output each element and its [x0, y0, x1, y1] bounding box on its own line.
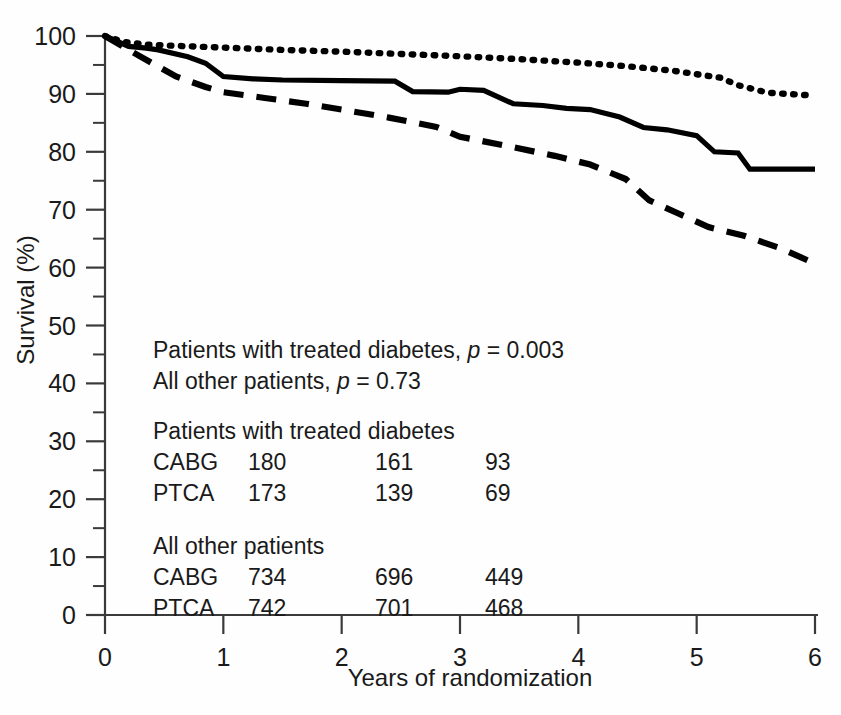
y-tick-label: 10 — [48, 543, 76, 571]
y-tick-label: 70 — [48, 196, 76, 224]
x-tick-label: 1 — [216, 643, 230, 671]
risk-table-row-label: PTCA — [153, 595, 215, 621]
risk-table-count: 69 — [485, 480, 511, 506]
y-tick-label: 50 — [48, 312, 76, 340]
x-axis: 0123456 — [98, 615, 822, 671]
x-tick-label: 5 — [690, 643, 704, 671]
x-axis-title: Years of randomization — [348, 664, 593, 691]
survival-curves — [105, 36, 815, 264]
x-tick-label: 0 — [98, 643, 112, 671]
y-axis: 0102030405060708090100 — [34, 22, 105, 629]
risk-table-count: 173 — [248, 480, 286, 506]
y-tick-label: 0 — [62, 601, 76, 629]
y-tick-label: 100 — [34, 22, 76, 50]
risk-table-count: 180 — [248, 449, 286, 475]
risk-table-count: 742 — [248, 595, 286, 621]
risk-table-row-label: CABG — [153, 564, 218, 590]
x-tick-label: 2 — [335, 643, 349, 671]
risk-table-row-label: CABG — [153, 449, 218, 475]
chart-canvas: 0102030405060708090100 0123456 Years of … — [0, 0, 841, 715]
risk-table-count: 701 — [375, 595, 413, 621]
risk-table-heading: All other patients — [153, 533, 324, 559]
y-tick-label: 30 — [48, 427, 76, 455]
risk-table-count: 139 — [375, 480, 413, 506]
p-value-line: Patients with treated diabetes, p = 0.00… — [153, 337, 564, 363]
chart-annotations: Patients with treated diabetes, p = 0.00… — [153, 337, 564, 621]
risk-table-heading: Patients with treated diabetes — [153, 418, 455, 444]
y-tick-label: 60 — [48, 254, 76, 282]
y-tick-label: 90 — [48, 80, 76, 108]
p-value-line: All other patients, p = 0.73 — [153, 368, 421, 394]
x-tick-label: 6 — [808, 643, 822, 671]
risk-table-count: 468 — [485, 595, 523, 621]
risk-table-row-label: PTCA — [153, 480, 215, 506]
y-axis-title: Survival (%) — [12, 235, 39, 364]
y-tick-label: 20 — [48, 485, 76, 513]
risk-table-count: 696 — [375, 564, 413, 590]
y-axis-tick-labels: 0102030405060708090100 — [34, 22, 76, 629]
risk-table-count: 93 — [485, 449, 511, 475]
survival-chart-figure: 0102030405060708090100 0123456 Years of … — [0, 0, 841, 715]
risk-table-count: 734 — [248, 564, 287, 590]
risk-table-count: 161 — [375, 449, 413, 475]
y-tick-label: 80 — [48, 138, 76, 166]
risk-table-count: 449 — [485, 564, 523, 590]
y-tick-label: 40 — [48, 369, 76, 397]
